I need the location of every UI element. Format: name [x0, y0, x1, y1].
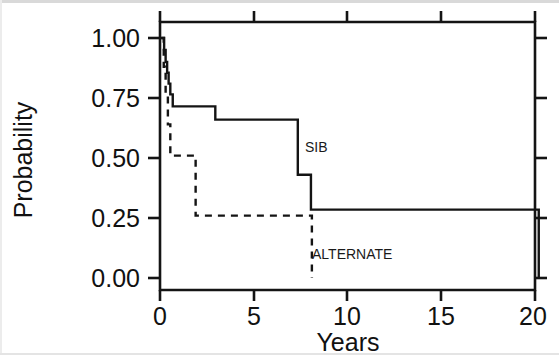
x-tick-label-0: 0: [153, 302, 167, 330]
x-tick-label-10: 10: [333, 302, 361, 330]
y-tick-label-0-00: 0.00: [91, 264, 140, 292]
y-axis-title: Probability: [9, 101, 37, 218]
x-axis-ticks-top: [160, 11, 535, 22]
x-tick-label-20: 20: [519, 302, 547, 330]
y-tick-label-1-00: 1.00: [91, 24, 140, 52]
x-axis-title: Years: [316, 328, 379, 355]
y-tick-label-0-75: 0.75: [91, 84, 140, 112]
series-line-alternate: [162, 38, 312, 278]
series-label-sib: SIB: [305, 139, 328, 155]
y-tick-label-0-25: 0.25: [91, 204, 140, 232]
x-axis-ticks: [160, 290, 535, 301]
y-tick-labels: 1.00 0.75 0.50 0.25 0.00: [91, 24, 140, 292]
series-label-alternate: ALTERNATE: [312, 246, 392, 262]
series-line-sib: [160, 38, 539, 278]
y-axis-ticks-right: [535, 38, 547, 278]
x-tick-label-5: 5: [247, 302, 261, 330]
figure-root: 1.00 0.75 0.50 0.25 0.00 0 5 10 15 20 Ye…: [0, 0, 559, 355]
y-tick-label-0-50: 0.50: [91, 144, 140, 172]
kaplan-meier-survival-chart: 1.00 0.75 0.50 0.25 0.00 0 5 10 15 20 Ye…: [0, 0, 559, 355]
x-tick-labels: 0 5 10 15 20: [153, 302, 547, 330]
x-tick-label-15: 15: [427, 302, 455, 330]
y-axis-ticks: [148, 38, 160, 278]
